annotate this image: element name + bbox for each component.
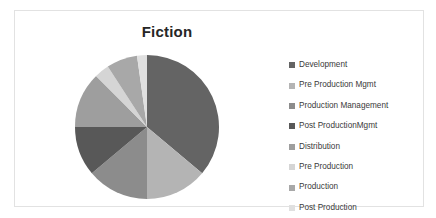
legend-swatch-icon — [289, 144, 295, 150]
chart-legend: DevelopmentPre Production MgmtProduction… — [289, 55, 435, 218]
legend-item[interactable]: Development — [289, 55, 435, 75]
legend-swatch-icon — [289, 103, 295, 109]
legend-item-label: Distribution — [299, 143, 340, 151]
legend-item[interactable]: Post ProductionMgmt — [289, 116, 435, 136]
legend-item-label: Production Management — [299, 102, 388, 110]
legend-item[interactable]: Production — [289, 177, 435, 197]
pie-chart-svg — [67, 53, 227, 203]
legend-item[interactable]: Pre Production Mgmt — [289, 75, 435, 95]
legend-item-label: Pre Production Mgmt — [299, 81, 376, 89]
chart-frame: Fiction DevelopmentPre Production MgmtPr… — [14, 10, 424, 207]
legend-item[interactable]: Post Production — [289, 198, 435, 218]
pie-chart — [67, 53, 227, 203]
legend-swatch-icon — [289, 185, 295, 191]
legend-item-label: Post Production — [299, 204, 357, 212]
legend-item-label: Development — [299, 61, 347, 69]
legend-swatch-icon — [289, 164, 295, 170]
chart-title: Fiction — [0, 23, 371, 40]
legend-swatch-icon — [289, 62, 295, 68]
legend-item[interactable]: Distribution — [289, 137, 435, 157]
legend-item-label: Post ProductionMgmt — [299, 122, 377, 130]
legend-item-label: Production — [299, 183, 338, 191]
legend-swatch-icon — [289, 205, 295, 211]
legend-item[interactable]: Production Management — [289, 96, 435, 116]
legend-item-label: Pre Production — [299, 163, 353, 171]
legend-swatch-icon — [289, 123, 295, 129]
legend-swatch-icon — [289, 83, 295, 89]
legend-item[interactable]: Pre Production — [289, 157, 435, 177]
pie-slice-group — [75, 55, 219, 199]
